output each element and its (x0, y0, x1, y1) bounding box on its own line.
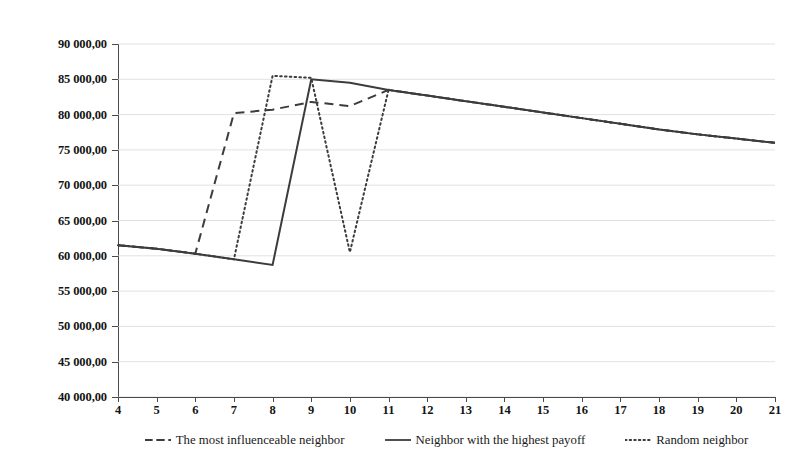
x-axis-tick (157, 397, 158, 402)
x-axis-tick (620, 397, 621, 402)
x-axis-tick (466, 397, 467, 402)
series-line (118, 79, 775, 265)
y-axis-tick-label: 45 000,00 (0, 356, 107, 369)
legend-line-swatch-dotted (625, 435, 651, 445)
series-canvas (118, 44, 775, 397)
y-axis-tick-label: 85 000,00 (0, 73, 107, 86)
y-axis-tick-label: 80 000,00 (0, 109, 107, 122)
y-axis-tick-label: 65 000,00 (0, 215, 107, 228)
y-axis-tick-label: 50 000,00 (0, 320, 107, 333)
y-axis-tick-label: 70 000,00 (0, 179, 107, 192)
x-axis-tick-label: 7 (214, 404, 254, 417)
legend-item[interactable]: Random neighbor (625, 434, 748, 447)
x-axis-tick (118, 397, 119, 402)
x-axis-tick-label: 6 (175, 404, 215, 417)
chart-legend: The most influenceable neighborNeighbor … (118, 428, 775, 452)
x-axis-tick (350, 397, 351, 402)
x-axis-tick (698, 397, 699, 402)
x-axis-line (118, 397, 775, 398)
x-axis-tick (582, 397, 583, 402)
x-axis-tick-label: 9 (291, 404, 331, 417)
x-axis-tick (427, 397, 428, 402)
x-axis-tick (389, 397, 390, 402)
legend-item[interactable]: Neighbor with the highest payoff (385, 434, 586, 447)
x-axis-tick (311, 397, 312, 402)
x-axis-tick (234, 397, 235, 402)
x-axis-tick (775, 397, 776, 402)
legend-line-swatch-solid (385, 435, 411, 445)
legend-label: Neighbor with the highest payoff (416, 434, 586, 447)
x-axis-tick (659, 397, 660, 402)
x-axis-tick-label: 18 (639, 404, 679, 417)
x-axis-tick (543, 397, 544, 402)
x-axis-tick-label: 4 (98, 404, 138, 417)
y-axis: 40 000,0045 000,0050 000,0055 000,0060 0… (0, 0, 107, 473)
y-axis-tick-label: 75 000,00 (0, 144, 107, 157)
x-axis-tick-label: 19 (678, 404, 718, 417)
x-axis-tick-label: 21 (755, 404, 795, 417)
x-axis-tick-label: 14 (484, 404, 524, 417)
y-axis-tick-label: 90 000,00 (0, 38, 107, 51)
x-axis-tick-label: 12 (407, 404, 447, 417)
x-axis-tick-label: 5 (137, 404, 177, 417)
x-axis-tick-label: 13 (446, 404, 486, 417)
x-axis-tick-label: 17 (600, 404, 640, 417)
x-axis-tick-label: 15 (523, 404, 563, 417)
x-axis-tick (504, 397, 505, 402)
legend-label: The most influenceable neighbor (176, 434, 345, 447)
x-axis-tick-label: 8 (253, 404, 293, 417)
x-axis-tick (195, 397, 196, 402)
x-axis-tick (736, 397, 737, 402)
x-axis-tick-label: 20 (716, 404, 756, 417)
line-chart: 40 000,0045 000,0050 000,0055 000,0060 0… (0, 0, 795, 473)
legend-item[interactable]: The most influenceable neighbor (145, 434, 345, 447)
y-axis-tick-label: 40 000,00 (0, 391, 107, 404)
legend-label: Random neighbor (656, 434, 748, 447)
x-axis-tick-label: 11 (369, 404, 409, 417)
y-axis-tick-label: 60 000,00 (0, 250, 107, 263)
x-axis-tick-label: 10 (330, 404, 370, 417)
plot-area (118, 44, 775, 397)
y-axis-tick-label: 55 000,00 (0, 285, 107, 298)
x-axis-tick (273, 397, 274, 402)
x-axis-tick-label: 16 (562, 404, 602, 417)
legend-line-swatch-dashed (145, 435, 171, 445)
series-line (118, 76, 775, 260)
